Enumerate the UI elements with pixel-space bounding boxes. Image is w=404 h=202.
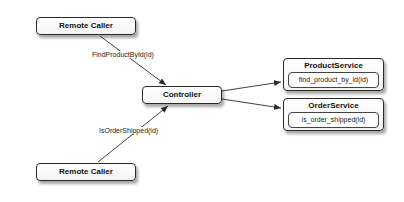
controller-node[interactable]: Controller: [142, 86, 222, 104]
node-label: Controller: [143, 87, 221, 103]
method-find-product-by-id[interactable]: find_product_by_id(id): [288, 72, 379, 88]
product-service-node[interactable]: ProductService find_product_by_id(id): [283, 58, 384, 91]
method-is-order-shipped[interactable]: is_order_shipped(id): [288, 112, 379, 128]
edge-controller-order: [222, 99, 281, 108]
remote-caller-top-node[interactable]: Remote Caller: [36, 17, 136, 35]
node-label: Remote Caller: [37, 164, 135, 180]
edge-is-order-shipped: [98, 106, 168, 162]
edge-find-product: [100, 36, 166, 85]
node-label: Remote Caller: [37, 18, 135, 34]
edge-label-is-order-shipped: IsOrderShipped(id): [98, 127, 159, 134]
edge-label-find-product: FindProductById(id): [91, 51, 155, 58]
remote-caller-bottom-node[interactable]: Remote Caller: [36, 163, 136, 181]
order-service-node[interactable]: OrderService is_order_shipped(id): [283, 98, 384, 131]
node-label: OrderService: [284, 100, 383, 111]
node-label: ProductService: [284, 60, 383, 71]
edge-controller-product: [222, 82, 281, 91]
